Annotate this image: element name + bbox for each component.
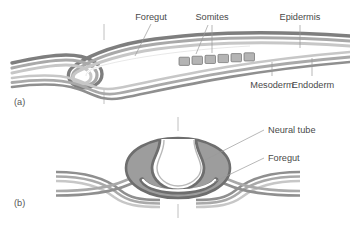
neural-groove-b [152, 139, 204, 190]
somite-box [231, 54, 242, 62]
somite-box [192, 56, 203, 64]
somite-box [179, 57, 190, 65]
panel-a: Foregut Somites Epidermis Mesoderm Endod… [12, 12, 350, 107]
label-mesoderm: Mesoderm [250, 80, 294, 90]
panel-label-a: (a) [14, 97, 25, 107]
panel-label-b: (b) [14, 198, 25, 208]
somite-box [218, 54, 229, 62]
label-somites: Somites [195, 12, 229, 22]
somite-box [205, 55, 216, 63]
panel-b: Neural tube Foregut (b) [14, 117, 316, 218]
label-foregut-a: Foregut [135, 12, 167, 22]
somite-box [244, 53, 255, 61]
embryology-figure: Foregut Somites Epidermis Mesoderm Endod… [0, 0, 350, 225]
label-neural-tube: Neural tube [268, 125, 316, 135]
label-epidermis: Epidermis [280, 12, 321, 22]
label-foregut-b: Foregut [268, 153, 300, 163]
label-endoderm: Endoderm [292, 80, 335, 90]
